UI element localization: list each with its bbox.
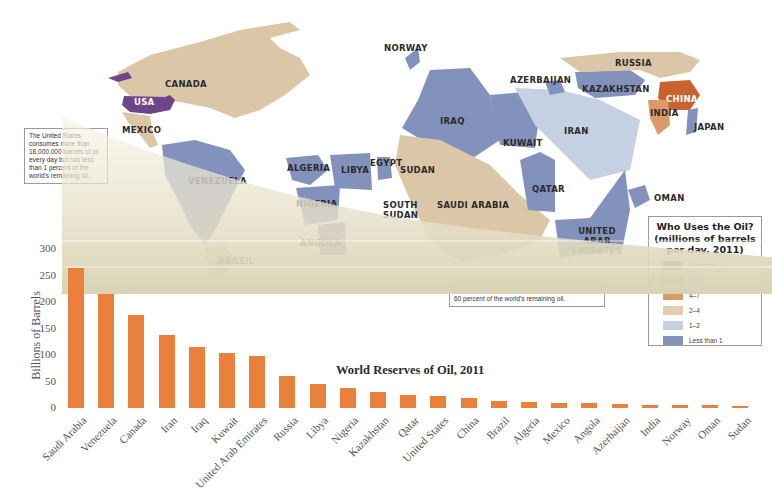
bar (370, 392, 386, 408)
bar (551, 403, 567, 408)
bar (672, 405, 688, 408)
bar (430, 396, 446, 408)
bar (521, 402, 537, 408)
bar (702, 405, 718, 408)
bar (581, 403, 597, 408)
bar (279, 376, 295, 408)
bar (612, 404, 628, 408)
y-axis-label: Billions of Barrels (29, 286, 44, 386)
bar (642, 405, 658, 408)
y-tick-label: 300 (32, 242, 56, 254)
bar (400, 395, 416, 408)
y-tick-label: 0 (32, 401, 56, 413)
bar (491, 401, 507, 408)
bar (340, 388, 356, 408)
chart-title: World Reserves of Oil, 2011 (336, 363, 484, 378)
bar (98, 294, 114, 408)
y-tick-label: 250 (32, 269, 56, 281)
bar (249, 356, 265, 408)
bar (159, 335, 175, 408)
bar (732, 406, 748, 408)
bar (128, 315, 144, 408)
bar (219, 353, 235, 408)
bar (189, 347, 205, 408)
bar (310, 384, 326, 408)
bar (461, 398, 477, 408)
bar (68, 268, 84, 408)
